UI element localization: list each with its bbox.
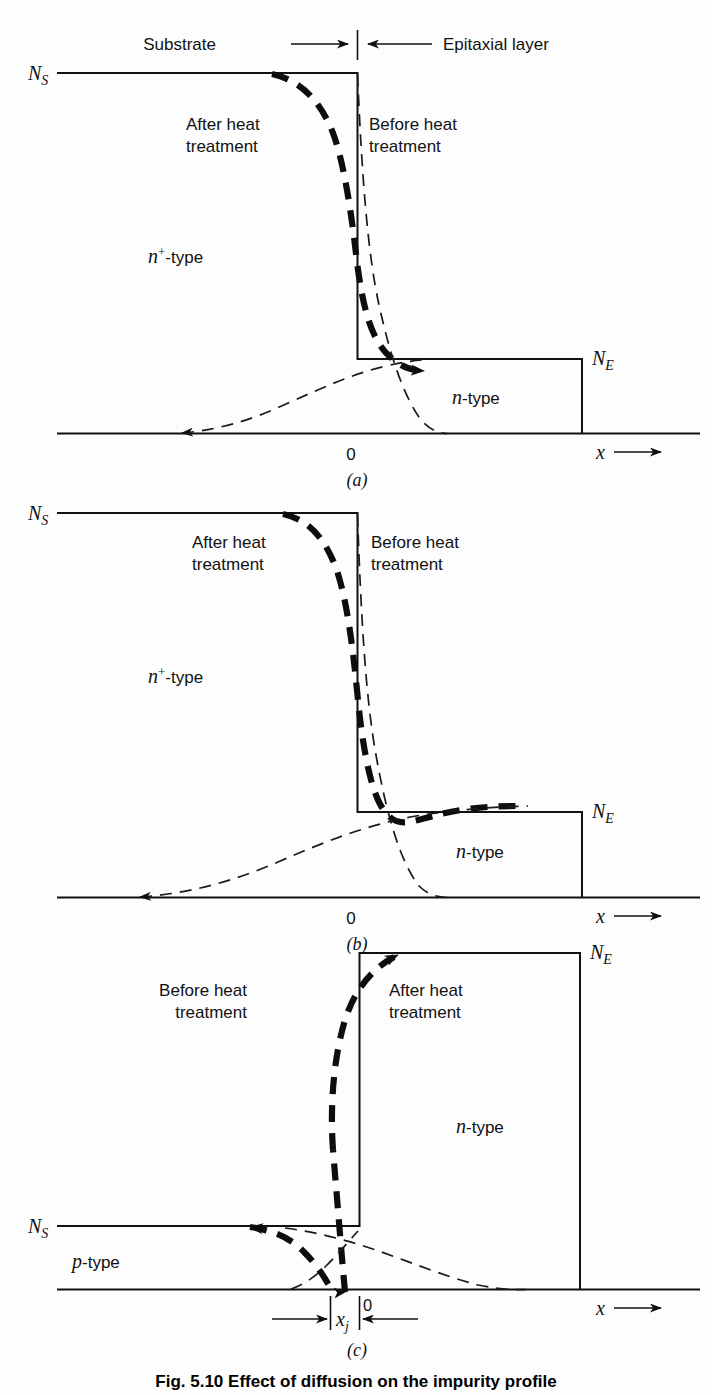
panel-c-after-curve-junction <box>333 1150 345 1292</box>
panel-b-x-label: x <box>595 905 605 927</box>
panel-a-origin-label: 0 <box>346 445 355 464</box>
panel-c-before-label-line2: treatment <box>175 1003 247 1022</box>
panel-c-epitaxial-out-tail <box>285 1228 526 1290</box>
panel-a-epitaxial-tail <box>182 360 430 434</box>
panel-c-after-label-line1: After heat <box>389 981 463 1000</box>
panel-b-n-type-label: n-type <box>456 840 504 862</box>
panel-b-panel-label: (b) <box>347 934 368 955</box>
panel-b-label-NS: NS <box>27 502 48 528</box>
panel-a-interface-annotation <box>291 30 432 60</box>
panel-b-before-label-line1: Before heat <box>371 533 459 552</box>
figure-caption-wrapper: Fig. 5.10 Effect of diffusion on the imp… <box>0 1372 712 1395</box>
panel-a-substrate-label: Substrate <box>143 35 216 54</box>
panel-c-xj-label: xj <box>335 1308 349 1334</box>
panel-a-panel-label: (a) <box>347 470 368 491</box>
panel-c-panel-label: (c) <box>347 1340 367 1361</box>
panel-a-n-type-label: n-type <box>452 386 500 408</box>
panel-c-before-label-line1: Before heat <box>159 981 247 1000</box>
panel-c-p-type-label: p-type <box>70 1250 120 1273</box>
panel-b-after-label-line2: treatment <box>192 555 264 574</box>
panel-b-before-profile <box>57 513 582 897</box>
panel-c-label-NS: NS <box>27 1215 48 1241</box>
panel-a-after-label-line1: After heat <box>186 115 260 134</box>
panel-a-label-NS: NS <box>27 62 48 88</box>
panel-c-origin-label: 0 <box>363 1296 372 1314</box>
panel-b: NS NE After heat treatment Before heat t… <box>27 502 700 955</box>
panel-b-before-label-line2: treatment <box>371 555 443 574</box>
panel-b-label-NE: NE <box>591 800 614 826</box>
panel-a: NS NE Substrate Epitaxial layer After he… <box>27 30 700 491</box>
panel-b-origin-label: 0 <box>346 909 355 928</box>
panel-c-label-NE: NE <box>589 941 612 967</box>
figure-caption: Fig. 5.10 Effect of diffusion on the imp… <box>155 1372 556 1391</box>
panel-a-nplus-type-label: n+-type <box>148 244 203 267</box>
panel-c-x-label: x <box>595 1297 605 1319</box>
impurity-profile-diagram: NS NE Substrate Epitaxial layer After he… <box>0 0 712 1395</box>
figure-container: NS NE Substrate Epitaxial layer After he… <box>0 0 712 1395</box>
panel-a-label-NE: NE <box>591 347 614 373</box>
panel-a-before-profile <box>57 73 582 433</box>
panel-b-after-label-line1: After heat <box>192 533 266 552</box>
panel-a-before-label-line2: treatment <box>369 137 441 156</box>
panel-a-before-label-line1: Before heat <box>369 115 457 134</box>
panel-b-nplus-type-label: n+-type <box>148 664 203 687</box>
panel-c-after-label-line2: treatment <box>389 1003 461 1022</box>
panel-a-epitaxial-label: Epitaxial layer <box>443 35 549 54</box>
panel-c-n-type-label: n-type <box>456 1115 504 1137</box>
panel-a-after-label-line2: treatment <box>186 137 258 156</box>
panel-c: NE NS Before heat treatment After heat t… <box>27 941 700 1361</box>
panel-a-x-label: x <box>595 441 605 463</box>
panel-c-after-curve <box>250 1227 331 1289</box>
